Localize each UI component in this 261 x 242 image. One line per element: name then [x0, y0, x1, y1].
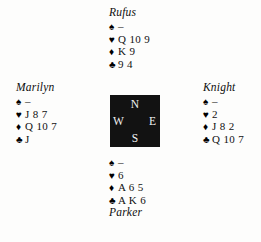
diamond-icon: ♦	[203, 121, 212, 134]
hand-east: Knight ♠– ♥2 ♦J 8 2 ♣Q 10 7	[203, 81, 244, 145]
south-hearts-cards: 6	[118, 169, 124, 181]
compass-north-label: N	[110, 98, 160, 110]
east-diamonds-cards: J 8 2	[212, 120, 235, 132]
west-clubs-cards: J	[25, 133, 30, 145]
south-diamonds-cards: A 6 5	[118, 181, 144, 193]
player-name-east: Knight	[203, 81, 244, 94]
diamond-icon: ♦	[109, 182, 118, 195]
diamond-icon: ♦	[109, 46, 118, 59]
compass-east-label: E	[149, 115, 156, 127]
west-spades-cards: –	[25, 95, 31, 107]
east-diamonds-row: ♦J 8 2	[203, 120, 244, 133]
north-hearts-row: ♥Q 10 9	[109, 33, 150, 46]
west-diamonds-cards: Q 10 7	[25, 120, 57, 132]
spade-icon: ♠	[203, 96, 212, 109]
diamond-icon: ♦	[16, 121, 25, 134]
west-clubs-row: ♣J	[16, 133, 57, 146]
spade-icon: ♠	[109, 21, 118, 34]
bridge-hand-diagram: Rufus ♠– ♥Q 10 9 ♦K 9 ♣9 4 Marilyn ♠– ♥J…	[0, 0, 261, 242]
player-name-north: Rufus	[109, 6, 150, 19]
north-hearts-cards: Q 10 9	[118, 33, 150, 45]
east-spades-row: ♠–	[203, 95, 244, 108]
player-name-south: Parker	[109, 206, 146, 219]
club-icon: ♣	[203, 134, 212, 147]
north-clubs-row: ♣9 4	[109, 58, 150, 71]
compass-south-label: S	[110, 132, 160, 144]
spade-icon: ♠	[16, 96, 25, 109]
club-icon: ♣	[109, 59, 118, 72]
north-spades-row: ♠–	[109, 20, 150, 33]
south-spades-row: ♠–	[109, 156, 146, 169]
hand-west: Marilyn ♠– ♥J 8 7 ♦Q 10 7 ♣J	[16, 81, 57, 145]
east-spades-cards: –	[212, 95, 218, 107]
hand-south: ♠– ♥6 ♦A 6 5 ♣A K 6 Parker	[109, 156, 146, 219]
north-clubs-cards: 9 4	[118, 58, 133, 70]
east-hearts-cards: 2	[212, 108, 218, 120]
south-diamonds-row: ♦A 6 5	[109, 181, 146, 194]
compass-box: N W E S	[110, 95, 160, 147]
west-diamonds-row: ♦Q 10 7	[16, 120, 57, 133]
spade-icon: ♠	[109, 157, 118, 170]
north-diamonds-row: ♦K 9	[109, 45, 150, 58]
player-name-west: Marilyn	[16, 81, 57, 94]
east-hearts-row: ♥2	[203, 108, 244, 121]
west-hearts-cards: J 8 7	[25, 108, 48, 120]
south-clubs-row: ♣A K 6	[109, 194, 146, 207]
west-hearts-row: ♥J 8 7	[16, 108, 57, 121]
south-spades-cards: –	[118, 156, 124, 168]
club-icon: ♣	[16, 134, 25, 147]
north-spades-cards: –	[118, 20, 124, 32]
south-hearts-row: ♥6	[109, 169, 146, 182]
south-clubs-cards: A K 6	[118, 194, 146, 206]
north-diamonds-cards: K 9	[118, 45, 135, 57]
east-clubs-cards: Q 10 7	[212, 133, 244, 145]
west-spades-row: ♠–	[16, 95, 57, 108]
compass-west-label: W	[113, 115, 124, 127]
east-clubs-row: ♣Q 10 7	[203, 133, 244, 146]
hand-north: Rufus ♠– ♥Q 10 9 ♦K 9 ♣9 4	[109, 6, 150, 70]
